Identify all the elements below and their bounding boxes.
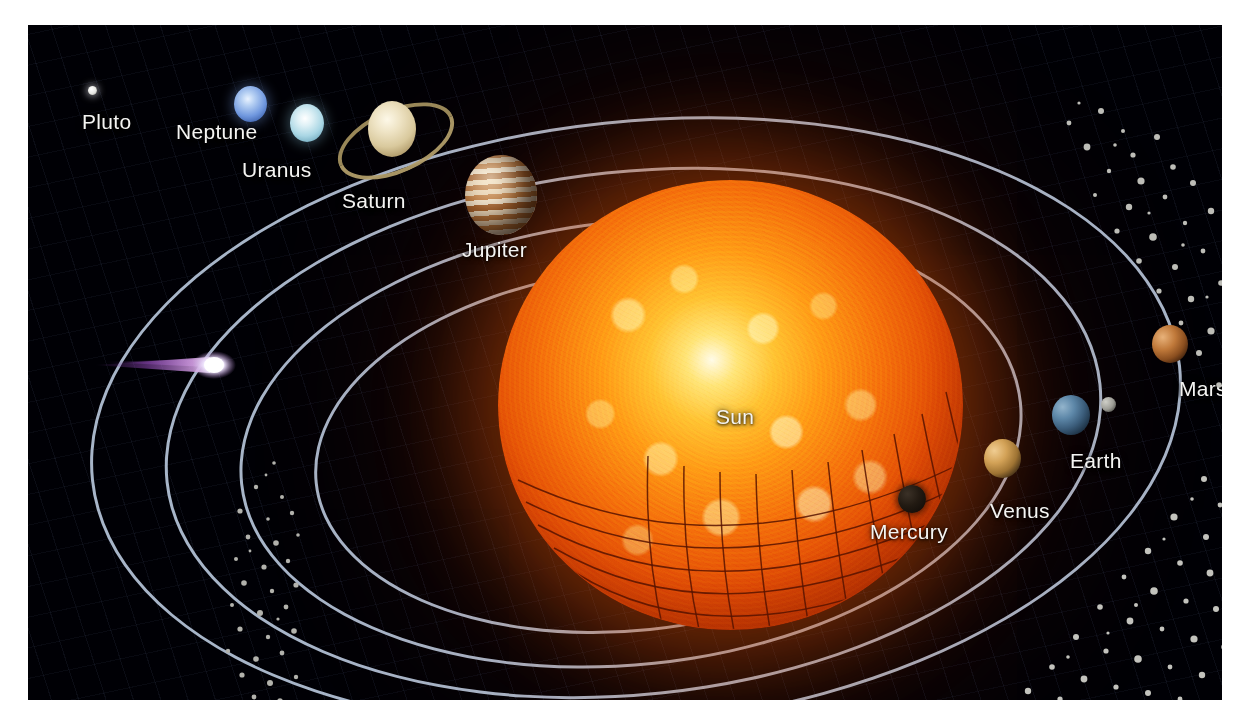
comet	[88, 325, 268, 405]
label-earth: Earth	[1070, 449, 1122, 473]
planet-venus	[984, 439, 1021, 478]
label-mercury: Mercury	[870, 520, 948, 544]
label-saturn: Saturn	[342, 189, 406, 213]
planet-mars	[1152, 325, 1188, 363]
label-venus: Venus	[990, 499, 1050, 523]
saturn-group	[333, 83, 451, 191]
label-jupiter: Jupiter	[462, 238, 527, 262]
label-uranus: Uranus	[242, 158, 312, 182]
moon	[1101, 397, 1116, 412]
label-pluto: Pluto	[82, 110, 131, 134]
label-sun: Sun	[716, 405, 754, 429]
planet-pluto	[88, 86, 97, 95]
solar-system-illustration: Pluto Neptune Uranus Saturn Jupiter Mars…	[28, 25, 1222, 700]
asteroid-belt-lower-left	[178, 455, 368, 700]
figure-frame: Pluto Neptune Uranus Saturn Jupiter Mars…	[0, 0, 1246, 719]
label-mars: Mars	[1179, 377, 1222, 401]
planet-jupiter	[465, 155, 537, 235]
planet-neptune	[234, 86, 267, 122]
planet-uranus	[290, 104, 324, 142]
label-neptune: Neptune	[176, 120, 258, 144]
planet-earth	[1052, 395, 1090, 435]
planet-mercury	[898, 485, 926, 513]
